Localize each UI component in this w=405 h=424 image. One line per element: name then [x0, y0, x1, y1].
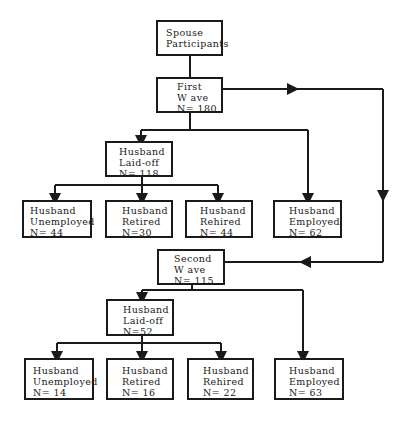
node-w1-husband-employed: Husband Employed N= 62: [273, 200, 342, 238]
node-second-wave: Second W ave N= 115: [157, 249, 225, 285]
node-w2-husband-employed: Husband Employed N= 63: [274, 358, 344, 400]
node-w1-husband-retired: Husband Retired N=30: [105, 200, 173, 238]
node-w2-husband-retired: Husband Retired N= 16: [106, 358, 174, 400]
node-w2-husband-rehired: Husband Rehired N= 22: [187, 358, 254, 400]
node-first-wave: First W ave N= 180: [156, 77, 223, 113]
node-w1-husband-rehired: Husband Rehired N= 44: [185, 200, 253, 238]
node-w1-husband-laid-off: Husband Laid-off N= 118: [105, 141, 173, 177]
node-w2-husband-laid-off: Husband Laid-off N=52: [106, 299, 174, 336]
node-spouse-participants: Spouse Participants: [156, 20, 223, 56]
node-w1-husband-unemployed: Husband Unemployed N= 44: [22, 200, 92, 238]
node-w2-husband-unemployed: Husband Unemployed N= 14: [24, 358, 94, 400]
